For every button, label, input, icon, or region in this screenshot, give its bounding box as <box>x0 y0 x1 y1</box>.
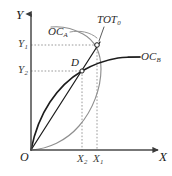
x1-tick-base: X <box>93 152 100 164</box>
point-d-marker <box>80 69 84 73</box>
x2-tick-label: X2 <box>77 153 87 166</box>
y1-tick-subscript: 1 <box>24 43 28 50</box>
x-axis-label: X <box>159 150 167 163</box>
y1-tick-label: Y1 <box>18 38 28 51</box>
terms-of-trade-label-subscript: 0 <box>117 19 121 26</box>
tot-leader-line <box>99 27 104 41</box>
offer-curve-b-label-subscript: B <box>156 56 160 63</box>
y2-tick-subscript: 2 <box>24 69 28 76</box>
offer-curve-a-label-subscript: A <box>63 31 67 38</box>
offer-curve-b-label: OCB <box>141 51 161 64</box>
offer-curve-a-label: OCA <box>48 26 68 39</box>
offer-curve-a-label-base: OC <box>48 25 63 37</box>
x1-tick-label: X1 <box>93 153 103 166</box>
terms-of-trade-path <box>31 42 100 150</box>
y2-tick-label: Y2 <box>18 64 28 77</box>
terms-of-trade-label-base: TOT <box>97 13 117 25</box>
equilibrium-point-marker <box>95 43 100 48</box>
offer-curve-b-label-base: OC <box>141 50 156 62</box>
terms-of-trade-label: TOT0 <box>97 14 121 27</box>
point-d-label: D <box>71 57 79 68</box>
x1-tick-subscript: 1 <box>100 158 104 165</box>
y-axis-label: Y <box>16 8 23 21</box>
offer-curve-b-path <box>31 57 140 150</box>
offer-curve-figure: Y X O Y1 Y2 X2 X1 OCA OCB TOT0 D <box>0 0 172 176</box>
x2-tick-base: X <box>77 152 84 164</box>
x2-tick-subscript: 2 <box>84 158 88 165</box>
origin-label: O <box>20 151 29 163</box>
